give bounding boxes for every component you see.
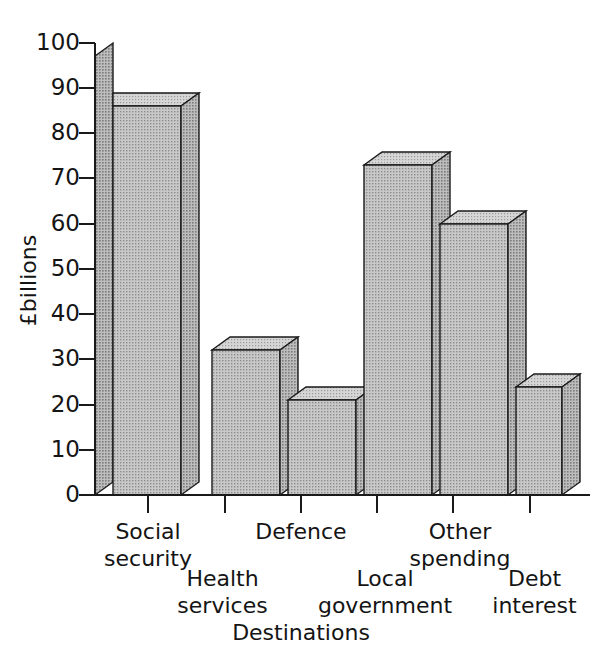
bar-defence-front (288, 400, 356, 495)
x-label-other-spending: Other spending (395, 518, 525, 572)
bar-social-security (95, 43, 199, 495)
y-axis-ticks (79, 43, 95, 495)
x-label-health-services: Health services (160, 565, 285, 619)
x-label-defence-line1: Defence (241, 518, 361, 545)
x-label-other-spending-line1: Other (395, 518, 525, 545)
x-label-defence: Defence (241, 518, 361, 545)
bar-debt-interest-front (516, 387, 562, 495)
y-tick-30-label: 30 (51, 347, 80, 370)
bar-health-services-front (212, 350, 280, 495)
bar-chart: 100 90 80 70 60 50 40 30 20 10 0 (0, 0, 602, 654)
bar-debt-interest-side (562, 374, 580, 495)
x-label-debt-interest-line1: Debt (472, 565, 597, 592)
x-label-debt-interest: Debt interest (472, 565, 597, 619)
bar-social-security-side (181, 93, 199, 495)
y-tick-70-label: 70 (51, 166, 80, 189)
x-label-health-services-line1: Health (160, 565, 285, 592)
y-tick-50-label: 50 (51, 257, 80, 280)
bar-health-services (212, 337, 298, 495)
x-label-health-services-line2: services (160, 592, 285, 619)
bar-other-spending-front (440, 224, 508, 495)
y-tick-40-label: 40 (51, 302, 80, 325)
bar-social-security-backface (95, 43, 113, 495)
bar-local-government (364, 152, 450, 495)
bar-debt-interest (516, 374, 580, 495)
bar-local-government-front (364, 165, 432, 495)
x-label-social-security-line1: Social (88, 518, 208, 545)
bar-other-spending (440, 211, 526, 495)
y-tick-20-label: 20 (51, 393, 80, 416)
bar-social-security-front (113, 106, 181, 495)
bar-defence (288, 387, 374, 495)
x-label-local-government-line1: Local (310, 565, 460, 592)
plot-area: 100 90 80 70 60 50 40 30 20 10 0 (0, 0, 602, 654)
y-tick-90-label: 90 (51, 76, 80, 99)
x-axis-title: Destinations (0, 620, 602, 645)
y-tick-80-label: 80 (51, 121, 80, 144)
x-label-local-government: Local government (310, 565, 460, 619)
y-tick-10-label: 10 (51, 438, 80, 461)
y-tick-60-label: 60 (51, 212, 80, 235)
y-tick-100-label: 100 (36, 31, 80, 54)
x-label-local-government-line2: government (310, 592, 460, 619)
x-axis-ticks (148, 495, 530, 513)
y-axis-title: £billions (16, 221, 41, 341)
x-label-social-security: Social security (88, 518, 208, 572)
y-tick-0-label: 0 (65, 483, 80, 506)
x-label-debt-interest-line2: interest (472, 592, 597, 619)
